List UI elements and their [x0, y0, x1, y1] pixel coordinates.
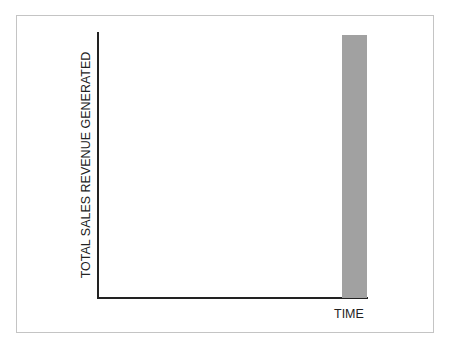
y-axis-label: TOTAL SALES REVENUE GENERATED	[79, 52, 93, 279]
x-axis-line	[97, 297, 368, 299]
x-axis-label: TIME	[334, 307, 364, 321]
y-axis-line	[97, 32, 99, 299]
bar	[342, 35, 367, 298]
